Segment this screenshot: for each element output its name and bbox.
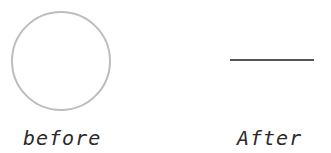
before-caption: before: [23, 126, 101, 150]
circle-outline: [12, 12, 110, 110]
after-caption: After: [237, 126, 302, 150]
circle-shape: [0, 0, 165, 120]
line-shape: [165, 0, 331, 120]
after-panel: After: [165, 0, 331, 153]
before-panel: before: [0, 0, 165, 153]
